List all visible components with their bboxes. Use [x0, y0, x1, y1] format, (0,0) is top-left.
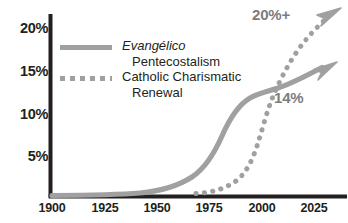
legend-item-evangelico-label: Evangélico Pentecostalism [122, 38, 245, 69]
y-tick-label: 15% [2, 63, 48, 79]
series-evangelico-arrowhead [314, 62, 337, 80]
y-axis-tick-labels: 20% 15% 10% 5% [0, 0, 48, 223]
y-tick-label: 5% [2, 148, 48, 164]
legend-label-line1: Catholic Charismatic [122, 69, 241, 84]
x-tick-label: 1975 [195, 201, 222, 215]
legend-item-catholic-label: Catholic Charismatic Renewal [122, 69, 245, 100]
x-tick-label: 1950 [143, 201, 170, 215]
x-tick-label: 2000 [248, 201, 275, 215]
annotation-catholic-value: 20%+ [252, 6, 290, 23]
legend-item-evangelico: Evangélico Pentecostalism [60, 38, 245, 69]
y-tick-label: 10% [2, 106, 48, 122]
chart-legend: Evangélico Pentecostalism Catholic Chari… [60, 38, 245, 100]
legend-solid-line-swatch [60, 45, 112, 50]
legend-dotted-line-swatch [60, 76, 112, 81]
chart-plot-area [0, 0, 348, 223]
y-tick-label: 20% [2, 20, 48, 36]
series-catholic-arrowhead [317, 8, 341, 26]
x-tick-label: 2025 [300, 201, 327, 215]
legend-label-line2: Pentecostalism [122, 54, 245, 70]
annotation-evangelico-value: 14% [274, 89, 303, 106]
series-catholic-charismatic-renewal [196, 8, 341, 194]
x-tick-label: 1900 [38, 201, 65, 215]
chart-container: 20% 15% 10% 5% 1900 1925 1950 1975 2000 … [0, 0, 348, 223]
x-tick-label: 1925 [91, 201, 118, 215]
legend-label-line2: Renewal [122, 85, 245, 101]
legend-item-catholic: Catholic Charismatic Renewal [60, 69, 245, 100]
legend-label-line1: Evangélico [122, 38, 186, 53]
